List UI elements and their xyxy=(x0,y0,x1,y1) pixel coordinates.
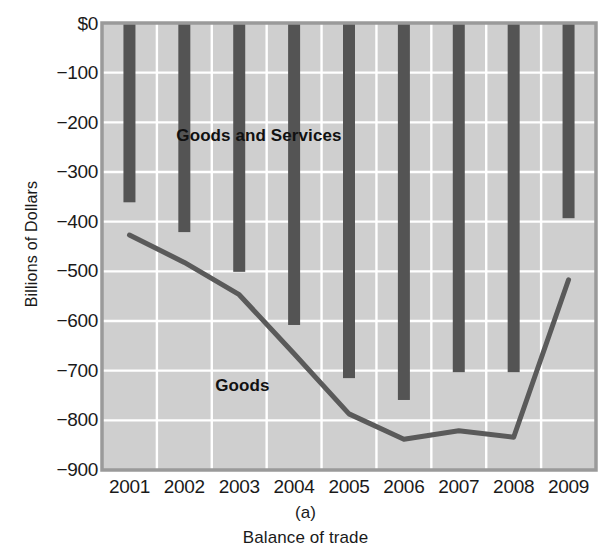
bar-2007 xyxy=(453,23,465,372)
annotation-goods: Goods xyxy=(215,376,269,396)
x-tick-2007: 2007 xyxy=(431,476,487,498)
x-tick-2005: 2005 xyxy=(321,476,377,498)
bar-2008 xyxy=(508,23,520,372)
chart-figure: Billions of Dollars $0 −100 −200 −300 −4… xyxy=(0,0,611,557)
bar-2001 xyxy=(123,23,135,202)
bar-2004 xyxy=(288,23,300,325)
x-tick-2003: 2003 xyxy=(211,476,267,498)
x-tick-2008: 2008 xyxy=(486,476,542,498)
panel-label: (a) xyxy=(0,503,611,523)
x-tick-2006: 2006 xyxy=(376,476,432,498)
x-tick-2004: 2004 xyxy=(266,476,322,498)
annotation-goods-and-services: Goods and Services xyxy=(176,126,341,146)
bar-2009 xyxy=(563,23,575,218)
figure-caption: Balance of trade xyxy=(0,528,611,548)
bar-2005 xyxy=(343,23,355,378)
x-tick-2009: 2009 xyxy=(541,476,597,498)
x-tick-2002: 2002 xyxy=(156,476,212,498)
bar-2003 xyxy=(233,23,245,272)
x-tick-2001: 2001 xyxy=(101,476,157,498)
bar-2006 xyxy=(398,23,410,400)
plot-area xyxy=(0,0,611,557)
